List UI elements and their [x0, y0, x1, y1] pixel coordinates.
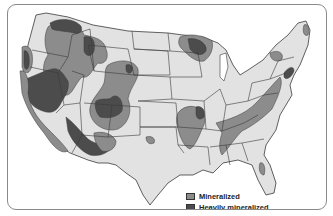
- map-frame: Northern Rockies / Idaho-Montana beltNor…: [7, 4, 327, 210]
- us-map: Northern Rockies / Idaho-Montana beltNor…: [8, 5, 327, 210]
- legend-item-mineralized: Mineralized: [186, 191, 269, 201]
- region-mineralized: Northern Maine: [303, 25, 309, 36]
- legend-label: Heavily mineralized: [199, 203, 269, 211]
- legend-label: Mineralized: [199, 192, 240, 201]
- legend-swatch-mineralized: [186, 193, 195, 200]
- map-legend: Mineralized Heavily mineralized: [186, 191, 269, 210]
- legend-item-heavily-mineralized: Heavily mineralized: [186, 202, 269, 210]
- region-heavily-mineralized: Western Montana: [84, 37, 95, 56]
- legend-swatch-heavily-mineralized: [186, 204, 195, 211]
- region-heavily-mineralized: Black Hills / Wyoming: [126, 64, 133, 73]
